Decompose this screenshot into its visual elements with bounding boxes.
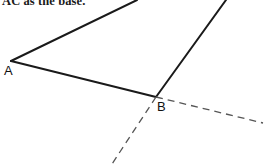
geometry-figure-canvas: AC as the base. A B xyxy=(0,0,273,164)
vertex-label-b: B xyxy=(157,100,166,113)
vertex-label-a: A xyxy=(4,64,13,77)
dashed-ray-B-lower-right xyxy=(156,97,263,123)
segment-B-to-upper-right xyxy=(156,0,226,97)
figure-line-drawing xyxy=(0,0,273,164)
segment-A-to-B xyxy=(11,61,156,97)
segment-A-to-upper xyxy=(11,0,137,61)
dashed-ray-B-lower-left xyxy=(112,97,156,164)
